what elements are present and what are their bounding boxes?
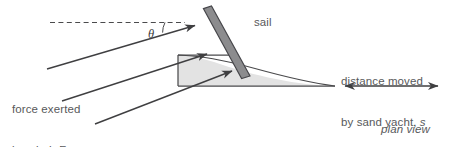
wind-arrow-bottom bbox=[95, 71, 232, 124]
yacht-hull bbox=[178, 55, 335, 86]
sail-label: sail bbox=[254, 16, 272, 30]
force-label-line1: force exerted bbox=[12, 103, 80, 117]
angle-arc bbox=[163, 23, 165, 33]
force-label-prefix: by wind, bbox=[12, 144, 58, 148]
distance-label-line1: distance moved bbox=[341, 75, 426, 89]
force-symbol: F bbox=[58, 144, 65, 148]
force-label-line2: by wind, F bbox=[12, 144, 80, 148]
diagram-canvas: θ sail force exerted by wind, F distance… bbox=[0, 0, 451, 147]
wind-arrow-top bbox=[47, 26, 195, 70]
angle-theta-label: θ bbox=[148, 28, 154, 42]
force-label: force exerted by wind, F bbox=[12, 76, 80, 147]
plan-view-label: plan view bbox=[381, 123, 430, 137]
